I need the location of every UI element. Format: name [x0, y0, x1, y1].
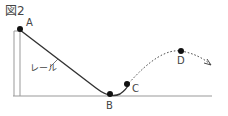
rail-label: レール [30, 64, 57, 73]
label-A: A [26, 18, 33, 28]
ball-C [124, 81, 130, 87]
ball-D [178, 48, 184, 54]
trajectory [129, 51, 210, 83]
label-C: C [132, 84, 139, 94]
diagram-canvas [0, 0, 228, 116]
label-B: B [106, 101, 113, 111]
ball-A [17, 26, 23, 32]
ball-B [107, 91, 113, 97]
label-D: D [177, 56, 185, 66]
